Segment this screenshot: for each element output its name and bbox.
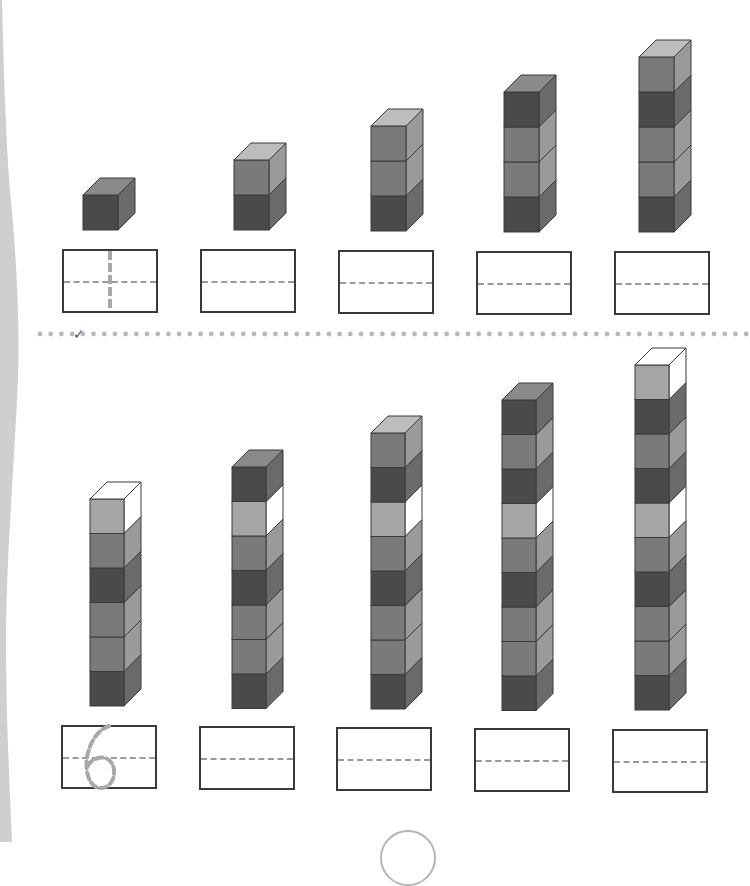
answer-box[interactable]	[61, 725, 157, 789]
cube-front-face	[639, 162, 674, 197]
cube-front-face	[635, 607, 669, 642]
cube-front-face	[635, 469, 669, 504]
cube-stack	[634, 347, 687, 715]
writing-guide-line	[64, 281, 156, 283]
writing-guide-line	[202, 281, 294, 283]
cube-front-face	[90, 637, 124, 672]
page-number-circle	[380, 830, 436, 886]
cube-front-face	[232, 501, 266, 536]
cube-front-face	[502, 676, 536, 711]
cube-front-face	[90, 534, 124, 569]
cube-front-face	[635, 641, 669, 676]
cube-front-face	[502, 400, 536, 435]
answer-box[interactable]	[62, 249, 158, 313]
cube-front-face	[371, 537, 405, 572]
cube-front-face	[90, 568, 124, 603]
writing-guide-line	[478, 283, 570, 285]
cube-stack-graphic	[501, 382, 554, 712]
cube-front-face	[502, 538, 536, 573]
cube-stack-graphic	[503, 74, 557, 233]
cube-front-face	[504, 92, 539, 127]
answer-box[interactable]	[474, 728, 570, 792]
cube-stack	[370, 108, 424, 236]
cube-stack-graphic	[638, 39, 692, 233]
cube-stack	[82, 177, 136, 235]
cube-front-face	[371, 606, 405, 641]
cube-front-face	[502, 469, 536, 504]
cube-front-face	[635, 538, 669, 573]
cube-stack	[89, 481, 142, 711]
dotted-separator	[35, 327, 750, 341]
cube-front-face	[504, 162, 539, 197]
page-margin-curve	[0, 0, 60, 842]
cube-front-face	[639, 197, 674, 232]
cube-front-face	[232, 605, 266, 640]
writing-guide-line	[201, 758, 293, 760]
cube-front-face	[502, 503, 536, 538]
cube-front-face	[232, 570, 266, 605]
writing-guide-line	[614, 761, 706, 763]
cube-front-face	[502, 607, 536, 642]
cube-front-face	[502, 641, 536, 676]
writing-guide-line	[476, 760, 568, 762]
cube-front-face	[639, 57, 674, 92]
cube-front-face	[639, 127, 674, 162]
cube-front-face	[504, 127, 539, 162]
cube-front-face	[639, 92, 674, 127]
cube-front-face	[90, 672, 124, 707]
cube-front-face	[90, 603, 124, 638]
cube-front-face	[502, 434, 536, 469]
answer-box[interactable]	[338, 250, 434, 314]
answer-box[interactable]	[199, 726, 295, 790]
cube-front-face	[232, 674, 266, 709]
cube-front-face	[371, 571, 405, 606]
cube-front-face	[232, 467, 266, 502]
cube-stack	[233, 142, 287, 235]
cube-front-face	[234, 195, 269, 230]
cube-stack-graphic	[370, 415, 423, 710]
cube-front-face	[371, 640, 405, 675]
cube-front-face	[371, 468, 405, 503]
cube-stack	[370, 415, 423, 714]
answer-box[interactable]	[612, 729, 708, 793]
cube-front-face	[90, 499, 124, 534]
cube-stack-graphic	[233, 142, 287, 231]
answer-box[interactable]	[200, 249, 296, 313]
cube-front-face	[635, 676, 669, 711]
cube-front-face	[371, 433, 405, 468]
answer-box[interactable]	[336, 727, 432, 791]
cube-stack	[638, 39, 692, 237]
cube-front-face	[635, 365, 669, 400]
cube-stack-graphic	[89, 481, 142, 707]
cube-stack	[231, 449, 284, 714]
cube-front-face	[371, 196, 406, 231]
cube-stack	[501, 382, 554, 716]
answer-box[interactable]	[476, 251, 572, 315]
cube-front-face	[504, 197, 539, 232]
cube-front-face	[371, 126, 406, 161]
cube-front-face	[234, 160, 269, 195]
cube-front-face	[635, 503, 669, 538]
cube-stack-graphic	[82, 177, 136, 231]
cube-front-face	[635, 400, 669, 435]
writing-guide-line	[63, 757, 155, 759]
cube-front-face	[83, 195, 118, 230]
cube-stack-graphic	[370, 108, 424, 232]
cube-front-face	[371, 502, 405, 537]
writing-guide-line	[338, 759, 430, 761]
cube-stack-graphic	[231, 449, 284, 710]
cube-front-face	[371, 675, 405, 710]
cube-front-face	[635, 434, 669, 469]
answer-box[interactable]	[614, 251, 710, 315]
cube-stack	[503, 74, 557, 237]
cube-front-face	[502, 572, 536, 607]
writing-guide-line	[340, 282, 432, 284]
cube-stack-graphic	[634, 347, 687, 711]
cube-front-face	[635, 572, 669, 607]
cube-front-face	[232, 639, 266, 674]
cube-front-face	[232, 536, 266, 571]
cube-front-face	[371, 161, 406, 196]
writing-guide-line	[616, 283, 708, 285]
